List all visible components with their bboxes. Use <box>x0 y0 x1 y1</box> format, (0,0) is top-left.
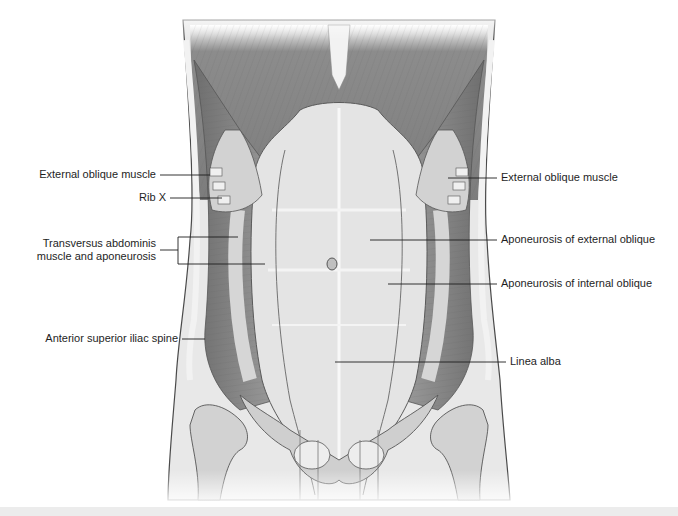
umbilicus <box>327 258 337 270</box>
label-aponeurosis-external-oblique: Aponeurosis of external oblique <box>501 233 655 246</box>
label-aponeurosis-internal-oblique: Aponeurosis of internal oblique <box>501 277 652 290</box>
caption-bar <box>0 507 678 516</box>
label-external-oblique-right: External oblique muscle <box>501 171 618 184</box>
label-external-oblique-left: External oblique muscle <box>39 168 156 181</box>
label-anterior-superior-iliac-spine: Anterior superior iliac spine <box>45 332 178 345</box>
label-linea-alba: Linea alba <box>510 355 561 368</box>
label-transversus-abdominis: Transversus abdominis muscle and aponeur… <box>37 237 156 263</box>
label-rib-x: Rib X <box>139 191 166 204</box>
label-transversus-line1: Transversus abdominis <box>37 237 156 250</box>
label-transversus-line2: muscle and aponeurosis <box>37 250 156 263</box>
anatomical-figure: External oblique muscle Rib X Transversu… <box>0 0 678 516</box>
